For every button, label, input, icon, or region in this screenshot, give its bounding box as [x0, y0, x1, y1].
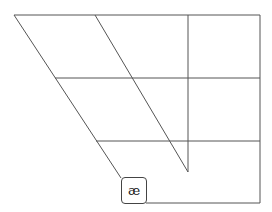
- vowel-ae-label: æ: [128, 183, 140, 198]
- vowel-ae[interactable]: æ: [121, 177, 147, 204]
- front-diagonal: [14, 15, 121, 178]
- central-diagonal: [95, 15, 188, 172]
